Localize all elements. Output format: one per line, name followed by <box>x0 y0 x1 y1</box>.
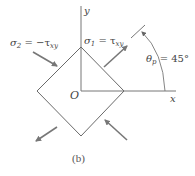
sigma2-arrow-lower-right <box>105 120 127 140</box>
sigma1-arrow-lower-left <box>36 127 57 141</box>
sigma2-label: σ2 = −τxy <box>10 37 59 50</box>
sigma1-arrow-upper-right <box>104 46 127 67</box>
sigma2-arrow-upper-left <box>33 52 57 66</box>
sigma1-label: σ1 = τxy <box>84 35 125 48</box>
origin-label: O <box>70 89 79 102</box>
figure-caption: (b) <box>72 152 85 165</box>
theta-p-label: θp = 45° <box>146 53 189 66</box>
principal-direction-tick <box>131 25 145 38</box>
principal-stress-diagram: y x O σ2 = −τxy σ1 = τxy θp = 45° (b) <box>0 0 195 176</box>
y-axis-label: y <box>83 5 90 16</box>
x-axis-label: x <box>170 93 176 104</box>
